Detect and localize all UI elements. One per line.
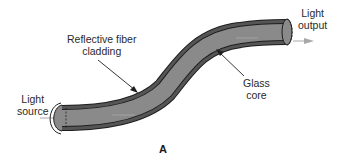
label-line: Light — [17, 93, 49, 105]
label-line: Light — [298, 7, 327, 19]
source-end-cap — [54, 105, 62, 131]
core-label: Glass core — [243, 77, 270, 101]
output-arrow-icon — [304, 38, 314, 44]
core-pointer — [219, 52, 244, 76]
label-line: cladding — [67, 45, 136, 57]
fiber-diagram — [0, 0, 346, 167]
cladding-label: Reflective fiber cladding — [67, 33, 136, 57]
label-line: output — [298, 19, 327, 31]
figure-label: A — [159, 143, 167, 155]
label-line: source — [17, 105, 49, 117]
label-line: core — [243, 89, 270, 101]
cladding-pointer — [98, 60, 135, 90]
label-line: Reflective fiber — [67, 33, 136, 45]
light-source-label: Light source — [17, 93, 49, 117]
light-output-label: Light output — [298, 7, 327, 31]
label-line: Glass — [243, 77, 270, 89]
